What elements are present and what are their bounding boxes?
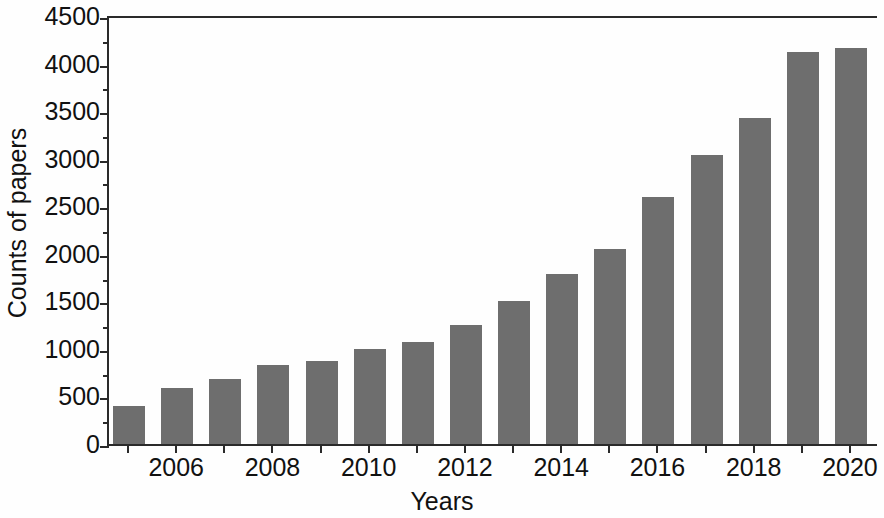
x-tick [801,444,803,453]
bar-2012 [450,325,482,446]
y-tick-label: 3000 [44,146,100,171]
bar-2019 [787,52,819,446]
x-tick [705,444,707,453]
bar-2006 [161,388,193,446]
x-tick [656,444,658,453]
bar-2016 [642,197,674,446]
y-tick-minor [103,184,109,186]
y-tick-minor [103,89,109,91]
bars-layer [109,18,879,446]
x-tick [368,444,370,453]
plot-area [107,16,877,444]
bar-2008 [257,365,289,446]
y-tick-label: 1000 [44,336,100,361]
x-tick [127,444,129,453]
y-tick-label: 500 [58,384,100,409]
y-tick-minor [103,42,109,44]
x-tick [271,444,273,453]
bar-2020 [835,48,867,447]
x-tick-label: 2018 [726,455,782,480]
y-tick-major [100,113,109,115]
y-tick-minor [103,422,109,424]
x-tick-label: 2012 [437,455,493,480]
bar-2015 [594,249,626,446]
x-tick [175,444,177,453]
x-tick [223,444,225,453]
bar-2017 [691,155,723,446]
y-tick-major [100,18,109,20]
x-tick [560,444,562,453]
bar-2007 [209,379,241,446]
y-tick-major [100,303,109,305]
y-tick-minor [103,327,109,329]
bar-2014 [546,274,578,446]
bar-chart: Counts of papers 05001000150020002500300… [0,0,884,518]
x-tick-label: 2020 [822,455,878,480]
x-tick [512,444,514,453]
y-tick-major [100,398,109,400]
y-tick-minor [103,280,109,282]
y-tick-major [100,208,109,210]
x-tick [753,444,755,453]
y-tick-minor [103,375,109,377]
x-tick-label: 2006 [148,455,204,480]
bar-2010 [354,349,386,446]
x-tick [608,444,610,453]
x-tick [849,444,851,453]
x-tick-label: 2016 [630,455,686,480]
y-tick-major [100,256,109,258]
y-tick-minor [103,232,109,234]
y-tick-label: 0 [86,432,100,457]
x-tick [464,444,466,453]
x-tick [320,444,322,453]
y-tick-label: 4500 [44,4,100,29]
bar-2018 [739,118,771,446]
bar-2005 [113,406,145,446]
y-tick-label: 2500 [44,194,100,219]
y-tick-major [100,66,109,68]
x-axis-title: Years [0,487,884,516]
y-tick-label: 2000 [44,241,100,266]
bar-2009 [306,361,338,446]
bar-2013 [498,301,530,446]
y-axis-tick-labels: 050010001500200025003000350040004500 [22,0,100,460]
y-tick-label: 4000 [44,51,100,76]
y-tick-major [100,161,109,163]
y-tick-label: 3500 [44,99,100,124]
y-tick-major [100,446,109,448]
y-tick-major [100,351,109,353]
x-tick-label: 2008 [245,455,301,480]
x-tick [416,444,418,453]
bar-2011 [402,342,434,446]
x-tick-label: 2014 [533,455,589,480]
x-tick-label: 2010 [341,455,397,480]
y-tick-minor [103,137,109,139]
y-tick-label: 1500 [44,289,100,314]
